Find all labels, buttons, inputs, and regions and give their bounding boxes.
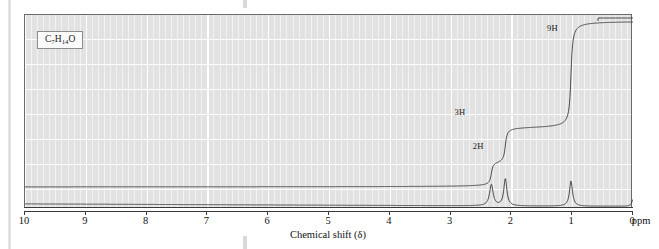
- x-axis-title: Chemical shift (δ): [290, 229, 366, 240]
- molecular-formula-text: C7H14O: [45, 34, 75, 44]
- integral-label-2h: 2H: [473, 141, 484, 151]
- spectrum-trace-svg: [25, 15, 633, 209]
- x-axis-tick-label-1: 1: [569, 215, 574, 226]
- nmr-spectrum-plot: C7H14O 2H3H9H: [24, 14, 632, 208]
- x-axis-tick-label-3: 3: [447, 215, 452, 226]
- x-axis-line-outer: [24, 207, 633, 208]
- x-axis-unit-label: ppm: [632, 215, 651, 226]
- x-axis-tick-label-5: 5: [325, 215, 330, 226]
- x-axis-tick-label-10: 10: [19, 215, 30, 226]
- page-scan-artifact-top: [243, 0, 247, 8]
- integral-curve: [25, 18, 633, 187]
- integral-label-9h: 9H: [547, 23, 558, 33]
- page-scan-artifact-bottom: [243, 236, 247, 249]
- page-scan-artifact-left: [8, 0, 11, 249]
- molecular-formula-label: C7H14O: [37, 31, 83, 49]
- absorption-curve: [25, 179, 633, 207]
- integral-label-3h: 3H: [455, 107, 466, 117]
- x-axis-tick-label-4: 4: [386, 215, 391, 226]
- x-axis-tick-label-9: 9: [82, 215, 87, 226]
- x-axis-tick-label-8: 8: [143, 215, 148, 226]
- x-axis-tick-label-7: 7: [204, 215, 209, 226]
- x-axis-tick-label-6: 6: [265, 215, 270, 226]
- x-axis-tick-label-2: 2: [508, 215, 513, 226]
